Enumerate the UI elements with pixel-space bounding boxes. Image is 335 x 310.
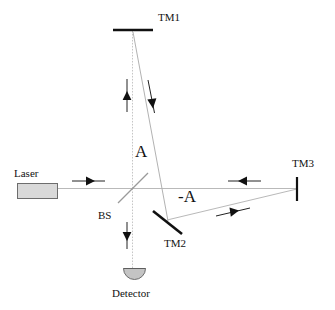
diagram-canvas [0,0,335,310]
beam-paths [58,31,297,268]
label-test-mass-3: TM3 [292,158,314,169]
arrow-slant-down [147,80,156,113]
arrow-horizontal-left [228,177,261,186]
interferometer-diagram: TM1 TM3 TM2 BS Laser Detector A -A [0,0,335,310]
test-mass-2-mirror[interactable] [153,211,182,234]
label-test-mass-1: TM1 [158,12,180,23]
beam-tm1-to-tm2 [133,32,168,221]
detector-semicircle [124,269,146,280]
label-beamsplitter: BS [98,210,111,221]
arrow-vertical-up [123,79,132,112]
label-detector: Detector [112,288,150,299]
label-amplitude-positive: A [135,143,147,160]
label-test-mass-2: TM2 [164,238,186,249]
laser-source-box[interactable] [17,183,58,199]
direction-arrows [72,79,261,249]
detector-body[interactable] [124,269,146,280]
label-amplitude-negative: -A [178,188,196,205]
arrow-laser-right [72,177,105,186]
arrow-slant-right [216,208,250,217]
label-laser: Laser [14,168,38,179]
arrow-vertical-down [123,222,132,249]
